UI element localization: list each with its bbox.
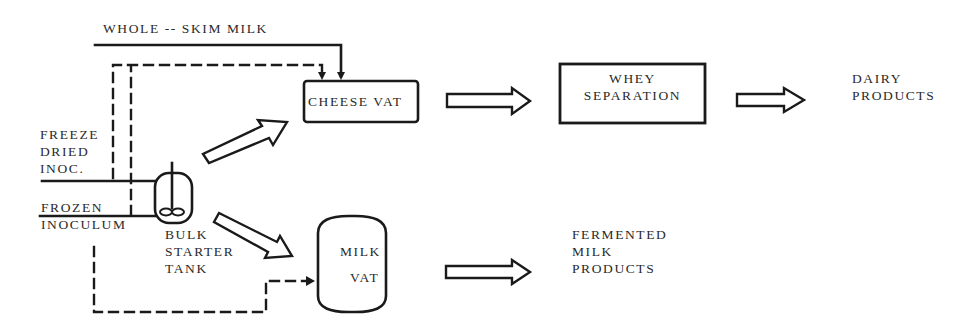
label-line: FREEZE xyxy=(40,126,99,143)
label-line: VAT xyxy=(340,269,381,286)
label-line: FROZEN xyxy=(41,199,127,216)
label-line: INOCULUM xyxy=(41,216,127,233)
label-line: PRODUCTS xyxy=(572,260,667,277)
label-milk-vat: MILK VAT xyxy=(340,243,381,286)
label-line: DRIED xyxy=(40,143,99,160)
label-line: WHEY xyxy=(560,70,705,87)
label-whey-separation: WHEY SEPARATION xyxy=(560,70,705,104)
label-line: BULK xyxy=(165,226,234,243)
label-freeze-dried-inoculum: FREEZE DRIED INOC. xyxy=(40,126,99,177)
label-frozen-inoculum: FROZEN INOCULUM xyxy=(41,199,127,233)
label-line: TANK xyxy=(165,260,234,277)
label-dairy-products: DAIRY PRODUCTS xyxy=(852,70,935,104)
label-line: STARTER xyxy=(165,243,234,260)
label-line: SEPARATION xyxy=(560,87,705,104)
label-line: INOC. xyxy=(40,160,99,177)
label-fermented-milk-products: FERMENTED MILK PRODUCTS xyxy=(572,226,667,277)
label-line: FERMENTED xyxy=(572,226,667,243)
label-bulk-starter-tank: BULK STARTER TANK xyxy=(165,226,234,277)
flow-diagram xyxy=(0,0,970,335)
label-line: PRODUCTS xyxy=(852,87,935,104)
arrowhead-icon xyxy=(337,72,345,80)
arrowhead-icon xyxy=(306,276,315,286)
bulk-starter-tank-icon xyxy=(155,163,192,223)
dashed-line-freeze-dried-to-cheese-vat xyxy=(113,65,322,178)
hollow-arrow-icon-cheese-to-whey xyxy=(447,88,530,114)
label-line: MILK xyxy=(340,243,381,260)
arrowhead-icon xyxy=(318,72,326,80)
hollow-arrow-icon-whey-to-dairy xyxy=(737,88,804,112)
label-line: MILK xyxy=(572,243,667,260)
hollow-arrow-icon-tank-to-cheese-vat xyxy=(203,120,287,163)
label-whole-skim-milk: WHOLE -- SKIM MILK xyxy=(103,20,268,37)
label-cheese-vat: CHEESE VAT xyxy=(308,93,403,110)
label-line: DAIRY xyxy=(852,70,935,87)
hollow-arrow-icon-milkvat-to-fermented xyxy=(446,260,530,284)
